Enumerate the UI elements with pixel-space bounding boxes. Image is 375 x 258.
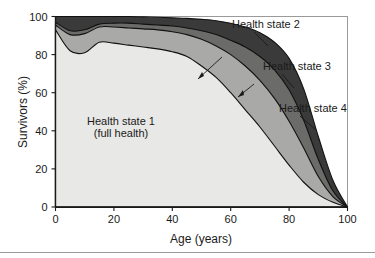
y-tick-label: 100 [29, 11, 47, 23]
y-tick-label: 40 [35, 125, 47, 137]
y-tick-label: 0 [41, 201, 47, 213]
health-state-1-label-line1: Health state 1 [87, 115, 155, 127]
health-state-3-label: Health state 3 [263, 60, 331, 72]
figure-container: 020406080100 020406080100 Survivors (%) … [0, 0, 375, 258]
y-tick-label: 60 [35, 87, 47, 99]
x-tick-label: 0 [52, 213, 58, 225]
x-tick-label: 80 [283, 213, 295, 225]
health-state-2-label: Health state 2 [232, 18, 300, 30]
x-tick-label: 40 [166, 213, 178, 225]
y-axis-title: Survivors (%) [16, 76, 30, 148]
x-axis-title: Age (years) [170, 232, 232, 246]
x-tick-label: 100 [338, 213, 356, 225]
health-state-4-label: Health state 4 [279, 102, 347, 114]
x-tick-label: 20 [108, 213, 120, 225]
health-state-1-label-line2: (full health) [94, 127, 148, 139]
y-tick-label: 20 [35, 163, 47, 175]
survival-curve-chart: 020406080100 020406080100 Survivors (%) … [0, 0, 375, 258]
x-tick-label: 60 [225, 213, 237, 225]
y-tick-label: 80 [35, 49, 47, 61]
